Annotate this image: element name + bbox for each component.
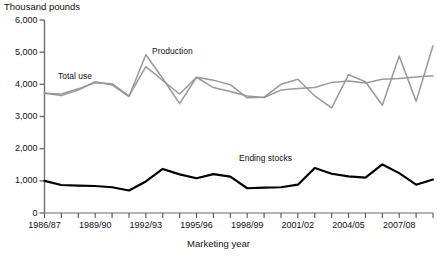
y-axis-tick-label: 0 xyxy=(4,208,38,218)
y-axis-tick-label: 4,000 xyxy=(4,79,38,89)
y-axis-tick-label: 3,000 xyxy=(4,111,38,121)
x-axis-tick-label: 2004/05 xyxy=(326,220,372,230)
x-axis-tick-label: 1998/99 xyxy=(224,220,270,230)
x-axis-tick-label: 1995/96 xyxy=(174,220,220,230)
x-axis-tick-label: 1986/87 xyxy=(22,220,68,230)
y-axis-tick-label: 2,000 xyxy=(4,143,38,153)
x-axis-tick-label: 2007/08 xyxy=(376,220,422,230)
series-label-production: Production xyxy=(152,46,193,56)
chart-container: Thousand pounds 01,0002,0003,0004,0005,0… xyxy=(0,0,437,258)
y-axis-tick-label: 1,000 xyxy=(4,175,38,185)
x-axis-title: Marketing year xyxy=(0,238,437,249)
y-axis-tick-label: 6,000 xyxy=(4,15,38,25)
series-label-ending-stocks: Ending stocks xyxy=(239,153,292,163)
x-axis-tick-label: 1989/90 xyxy=(72,220,118,230)
y-axis-tick-label: 5,000 xyxy=(4,47,38,57)
x-axis-tick-label: 2001/02 xyxy=(275,220,321,230)
series-label-total-use: Total use xyxy=(58,71,92,81)
chart-axes xyxy=(40,20,434,218)
x-axis-tick-label: 1992/93 xyxy=(123,220,169,230)
chart-series-lines xyxy=(45,46,434,191)
